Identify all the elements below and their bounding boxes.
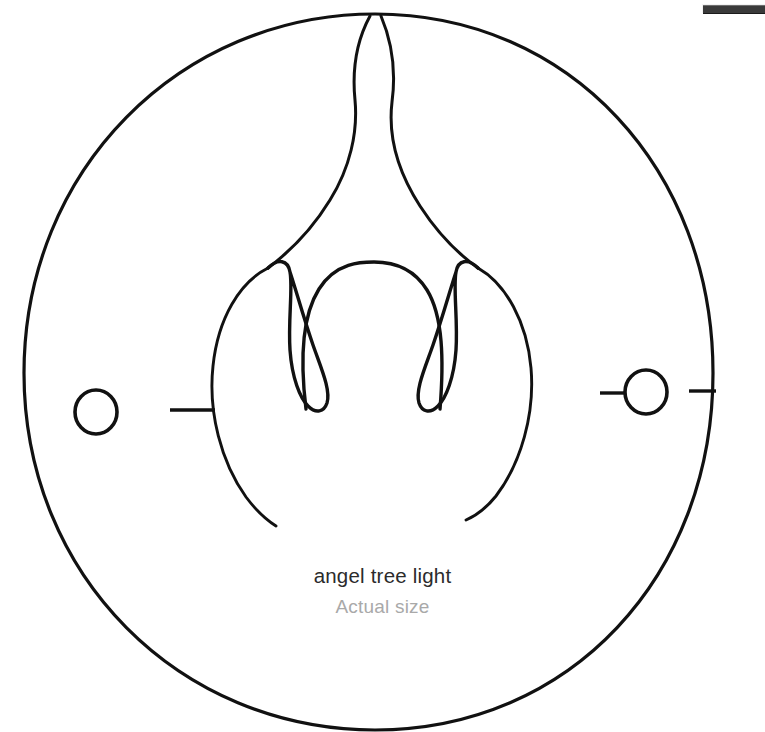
right-bulb-circle (625, 370, 667, 414)
left-bulb-circle (75, 390, 117, 434)
body-outline-left (212, 268, 276, 526)
drawing-canvas: angel tree light Actual size (0, 0, 765, 732)
left-hook-path (268, 262, 328, 411)
right-hook-path (418, 262, 478, 411)
center-arch-path (303, 262, 442, 409)
wing-line-right (381, 16, 478, 268)
wing-line-left (268, 16, 370, 268)
outer-ring-path (24, 14, 713, 730)
body-outline-right (466, 268, 532, 520)
angel-tree-light-line-drawing (0, 0, 765, 732)
horizontal-scrollbar-thumb[interactable] (703, 5, 765, 14)
